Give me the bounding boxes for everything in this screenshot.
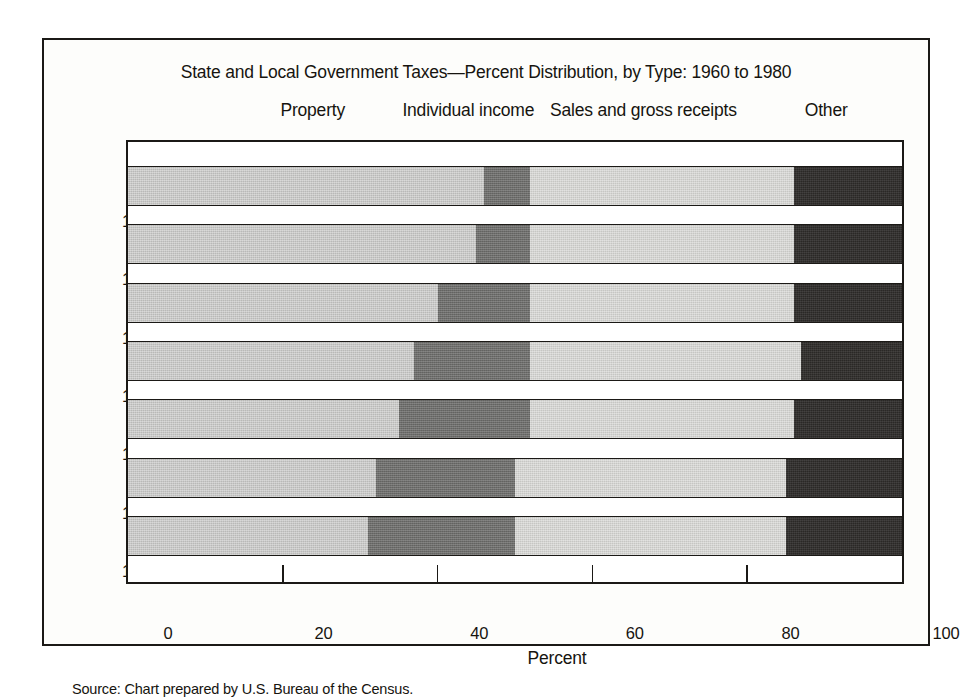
bar-row [128,516,902,556]
bar-segment [530,167,793,205]
x-axis-tick [746,565,748,582]
legend-item-sales-and-gross-receipts: Sales and gross receipts [550,100,737,121]
x-axis-tick-label: 0 [164,624,173,643]
x-axis-tick [592,565,594,582]
bar-segment [476,225,530,263]
bar-segment [128,517,368,555]
x-axis-title: Percent [168,648,946,669]
bar-row [128,166,902,206]
legend-item-individual-income: Individual income [402,100,534,121]
bar-row [128,458,902,498]
bar-segment [786,459,902,497]
bar-segment [530,400,793,438]
x-axis-tick-label: 60 [626,624,644,643]
x-axis-tick [437,565,439,582]
x-axis-tick-label: 80 [781,624,799,643]
bar-segment [399,400,531,438]
x-axis-tick-label: 40 [470,624,488,643]
bar-segment [530,225,793,263]
bar-segment [530,342,801,380]
bar-segment [128,342,414,380]
bar-segment [794,167,902,205]
x-axis-tick-labels: 020406080100 [168,624,946,648]
chart-title: State and Local Government Taxes—Percent… [44,62,928,83]
source-note: Source: Chart prepared by U.S. Bureau of… [72,681,413,697]
bar-segment [128,459,376,497]
bar-segment [515,459,786,497]
bar-segment [128,167,484,205]
bar-segment [128,284,438,322]
x-axis-tick-label: 100 [933,624,960,643]
bar-segment [438,284,531,322]
legend-item-property: Property [280,100,345,121]
bar-segment [368,517,515,555]
bar-segment [128,225,476,263]
bar-segment [794,284,902,322]
bar-row [128,341,902,381]
x-axis-tick [282,565,284,582]
bar-row [128,224,902,264]
bar-row [128,399,902,439]
bar-segment [484,167,530,205]
x-axis-tick-label: 20 [315,624,333,643]
bar-segment [414,342,530,380]
figure-frame: State and Local Government Taxes—Percent… [42,38,930,646]
bars-container [128,166,902,556]
bar-row [128,283,902,323]
bar-segment [801,342,902,380]
legend-item-other: Other [805,100,848,121]
plot-area [126,140,904,584]
bar-segment [376,459,515,497]
bar-segment [794,400,902,438]
bar-segment [786,517,902,555]
bar-segment [515,517,786,555]
bar-segment [128,400,399,438]
chart-legend: Property Individual income Sales and gro… [44,100,928,124]
bar-segment [794,225,902,263]
bar-segment [530,284,793,322]
